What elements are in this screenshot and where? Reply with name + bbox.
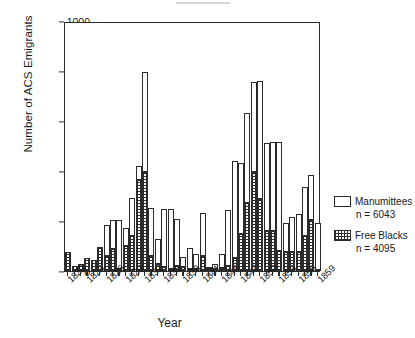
bar-segment-free-blacks [238, 234, 244, 271]
bar-column [225, 21, 231, 271]
bar-column [148, 21, 154, 271]
x-axis-title-text: Year [157, 316, 181, 330]
x-axis-tick-mark [138, 272, 139, 276]
legend-item: Free Blacks [334, 230, 415, 241]
x-axis-tick-mark [93, 272, 94, 276]
bar-column [116, 21, 122, 271]
bar-segment-manumittees [251, 82, 257, 172]
plot-area [64, 22, 320, 272]
x-axis-tick-mark [170, 272, 171, 276]
x-axis-tick-mark [176, 272, 177, 276]
bar-column [232, 21, 238, 271]
bar-column [308, 21, 314, 271]
bar-segment-manumittees [238, 163, 244, 234]
x-axis-tick-mark [99, 272, 100, 276]
x-axis-tick-mark [304, 272, 305, 276]
x-axis-tick-mark [150, 272, 151, 276]
bar-column [72, 21, 78, 271]
bar-segment-manumittees [129, 198, 135, 236]
x-axis-tick-mark [208, 272, 209, 276]
bar-column [187, 21, 193, 271]
y-axis-title: Number of ACS Emigrants [22, 4, 34, 164]
bar-segment-manumittees [276, 142, 282, 251]
x-axis-tick-mark [131, 272, 132, 276]
legend-count: n = 6043 [356, 209, 415, 220]
bar-column [168, 21, 174, 271]
bar-column [129, 21, 135, 271]
bar-segment-manumittees [264, 143, 270, 231]
chart-figure: Number of ACS Emigrants 0200400600800100… [0, 0, 415, 338]
bar-column [264, 21, 270, 271]
x-axis-tick-mark [253, 272, 254, 276]
bar-column [238, 21, 244, 271]
bar-column [65, 21, 71, 271]
bar-segment-free-blacks [65, 252, 71, 272]
x-axis-title: Year [0, 316, 415, 330]
legend-swatch [334, 196, 351, 207]
x-axis-tick-mark [266, 272, 267, 276]
x-axis-tick-mark [80, 272, 81, 276]
bar-column [193, 21, 199, 271]
bar-segment-manumittees [110, 220, 116, 250]
legend-label: Free Blacks [355, 230, 408, 241]
bar-column [123, 21, 129, 271]
bar-column [270, 21, 276, 271]
x-axis-tick-mark [189, 272, 190, 276]
bar-column [296, 21, 302, 271]
bar-segment-manumittees [315, 223, 321, 270]
bar-segment-manumittees [168, 209, 174, 270]
bar-column [251, 21, 257, 271]
bar-segment-manumittees [174, 219, 180, 266]
bar-column [142, 21, 148, 271]
bar-column [200, 21, 206, 271]
bar-segment-manumittees [142, 72, 148, 172]
bar-segment-manumittees [155, 239, 161, 264]
legend-count: n = 4095 [356, 243, 415, 254]
bar-segment-manumittees [104, 225, 110, 256]
bar-column [257, 21, 263, 271]
x-axis-tick-mark [272, 272, 273, 276]
bar-segment-free-blacks [257, 199, 263, 272]
bar-segment-manumittees [116, 220, 122, 269]
bar-column [180, 21, 186, 271]
bar-segment-free-blacks [251, 172, 257, 272]
bar-segment-manumittees [148, 208, 154, 256]
bar-segment-manumittees [289, 217, 295, 252]
bar-column [289, 21, 295, 271]
x-axis-tick-mark [112, 272, 113, 276]
bar-column [315, 21, 321, 271]
bar-column [91, 21, 97, 271]
bar-segment-manumittees [244, 113, 250, 204]
bar-segment-manumittees [270, 142, 276, 231]
bar-segment-manumittees [302, 187, 308, 236]
bar-segment-free-blacks [244, 203, 250, 271]
bar-column [104, 21, 110, 271]
bar-column [283, 21, 289, 271]
x-axis-tick-mark [234, 272, 235, 276]
bar-column [78, 21, 84, 271]
x-axis-tick-mark [74, 272, 75, 276]
bar-segment-manumittees [136, 166, 142, 180]
x-axis-tick-mark [291, 272, 292, 276]
bar-segment-manumittees [180, 257, 186, 268]
bar-column [136, 21, 142, 271]
bar-segment-manumittees [283, 223, 289, 252]
bar-column [212, 21, 218, 271]
legend: Manumitteesn = 6043Free Blacksn = 4095 [334, 196, 415, 264]
x-axis-tick-mark [285, 272, 286, 276]
bar-column [110, 21, 116, 271]
x-axis-tick-mark [118, 272, 119, 276]
x-axis-tick-mark [195, 272, 196, 276]
x-axis-tick-mark [227, 272, 228, 276]
bar-segment-manumittees [225, 210, 231, 266]
legend-label: Manumittees [355, 196, 412, 207]
bar-column [276, 21, 282, 271]
x-axis-tick-mark [246, 272, 247, 276]
x-axis-tick-mark [214, 272, 215, 276]
bar-segment-manumittees [296, 214, 302, 252]
bar-segment-manumittees [200, 213, 206, 256]
bar-column [97, 21, 103, 271]
bar-segment-free-blacks [136, 180, 142, 271]
legend-item: Manumittees [334, 196, 415, 207]
bar-column [219, 21, 225, 271]
